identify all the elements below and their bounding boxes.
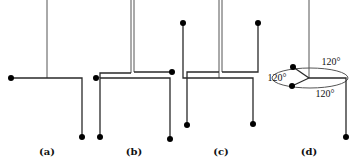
angle-label-left: 120° — [268, 72, 287, 83]
node-dot — [169, 69, 175, 75]
branch — [11, 78, 82, 137]
panel-b: (b) — [93, 0, 175, 157]
panel-a: (a) — [8, 0, 85, 157]
lower-branch — [100, 78, 170, 139]
node-dot — [180, 20, 186, 26]
angle-label-top: 120° — [322, 56, 341, 67]
node-dot — [289, 83, 295, 89]
node-dot — [93, 75, 99, 81]
node-dot — [167, 136, 173, 142]
upper-right-branch — [222, 23, 258, 72]
panel-label-a: (a) — [39, 146, 55, 157]
panel-c: (c) — [180, 0, 261, 157]
panel-label-c: (c) — [213, 146, 229, 157]
panel-label-d: (d) — [301, 146, 317, 157]
angle-label-bottom: 120° — [316, 88, 335, 99]
inner-left-branch — [187, 72, 219, 125]
node-dot — [97, 134, 103, 140]
node-dot — [250, 121, 256, 127]
node-dot — [8, 75, 14, 81]
panel-d: 120° 120° 120° (d) — [268, 0, 350, 157]
node-dot — [255, 20, 261, 26]
panel-label-b: (b) — [126, 146, 142, 157]
node-dot — [343, 134, 349, 140]
diagram: (a) (b) (c) 120° 120° — [0, 0, 356, 161]
upper-left-branch — [100, 73, 131, 78]
outer-branch — [183, 23, 253, 124]
node-dot — [290, 64, 296, 70]
node-dot — [79, 134, 85, 140]
node-dot — [184, 122, 190, 128]
